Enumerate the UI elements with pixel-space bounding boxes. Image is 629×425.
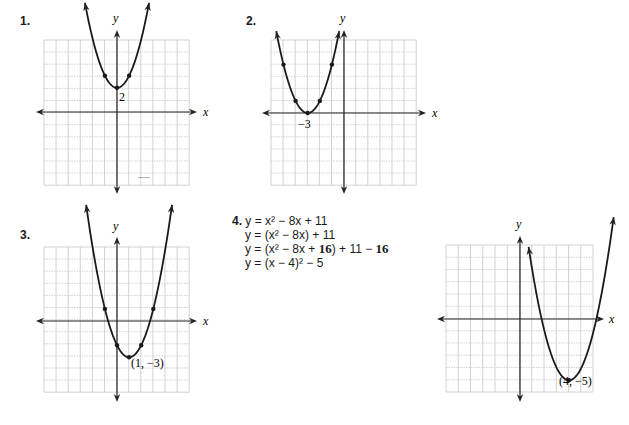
x-axis-label: x bbox=[431, 106, 438, 120]
vertex-label: 2 bbox=[119, 90, 125, 104]
y-axis-label: y bbox=[339, 11, 346, 25]
worksheet-graphs: xy2xy−3xy(1, −3)xy(4, −5)— bbox=[0, 0, 629, 425]
algebra-line-1: 4. y = x² − 8x + 11 bbox=[232, 214, 389, 228]
parabola-curve bbox=[86, 205, 172, 357]
plotted-point bbox=[318, 99, 322, 103]
algebra-line-4: y = (x − 4)² − 5 bbox=[232, 256, 389, 270]
graph-3: xy(1, −3) bbox=[36, 205, 209, 402]
plotted-point bbox=[330, 62, 334, 66]
x-axis-label: x bbox=[202, 314, 209, 328]
graph-2: xy−3 bbox=[262, 11, 438, 194]
y-axis-label: y bbox=[112, 11, 119, 25]
plotted-point bbox=[151, 307, 155, 311]
problem-number-3: 3. bbox=[20, 228, 30, 242]
y-axis-label: y bbox=[112, 219, 119, 233]
graph-4: xy(4, −5) bbox=[437, 217, 616, 402]
x-axis-label: x bbox=[608, 312, 615, 326]
plotted-point bbox=[293, 99, 297, 103]
plotted-point bbox=[127, 74, 131, 78]
problem-number-2: 2. bbox=[246, 14, 256, 28]
vertex-label: (4, −5) bbox=[559, 374, 592, 388]
x-axis-label: x bbox=[202, 105, 209, 119]
parabola-curve bbox=[529, 217, 614, 380]
plotted-point bbox=[306, 111, 310, 115]
graph-1: xy2 bbox=[36, 3, 209, 194]
stray-mark: — bbox=[137, 169, 151, 183]
problem-number-1: 1. bbox=[20, 14, 30, 28]
vertex-label: −3 bbox=[298, 117, 311, 131]
plotted-point bbox=[115, 343, 119, 347]
plotted-point bbox=[139, 343, 143, 347]
y-axis-label: y bbox=[515, 217, 522, 231]
plotted-point bbox=[281, 62, 285, 66]
problem-number-4: 4. bbox=[232, 214, 245, 228]
plotted-point bbox=[103, 74, 107, 78]
plotted-point bbox=[103, 307, 107, 311]
algebra-line-3: y = (x² − 8x + 16) + 11 − 16 bbox=[232, 242, 389, 256]
problem-4-completing-square-steps: 4. y = x² − 8x + 11y = (x² − 8x) + 11y =… bbox=[232, 214, 389, 270]
algebra-line-2: y = (x² − 8x) + 11 bbox=[232, 228, 389, 242]
vertex-label: (1, −3) bbox=[131, 356, 164, 370]
